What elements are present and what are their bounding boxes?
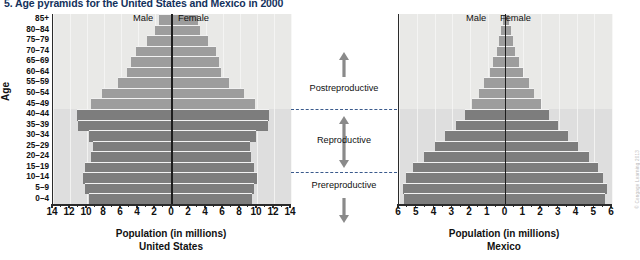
x-axis-minor-tick — [128, 204, 129, 207]
y-axis-tick-label: 55–59 — [26, 78, 49, 86]
y-axis-tick-label: 30–34 — [26, 131, 49, 139]
x-axis-tick-label: 8 — [100, 206, 106, 217]
x-axis-tick-label: 3 — [448, 206, 454, 217]
x-axis-tick-label: 2 — [151, 206, 157, 217]
x-axis-tick-label: 3 — [555, 206, 561, 217]
x-axis-tick-label: 6 — [117, 206, 123, 217]
center-axis-line — [505, 14, 507, 204]
y-axis-tick-label: 10–14 — [26, 173, 49, 181]
center-axis-line — [171, 14, 173, 204]
reproductive-label: Reproductive — [291, 135, 397, 145]
x-axis-minor-tick — [230, 204, 231, 207]
y-axis-tick-label: 60–64 — [26, 68, 49, 76]
x-axis-minor-tick — [477, 204, 478, 207]
us-male-label: Male — [133, 13, 153, 23]
mexico-caption-line2: Mexico — [449, 241, 560, 254]
us-caption-line1: Population (in millions) — [116, 228, 227, 241]
x-axis-tick-label: 10 — [80, 206, 91, 217]
us-plot-area — [52, 14, 291, 204]
y-axis-tick-label: 80–84 — [26, 26, 49, 34]
mexico-caption-line1: Population (in millions) — [449, 228, 560, 241]
y-axis-tick-label: 50–54 — [26, 89, 49, 97]
x-axis-minor-tick — [281, 204, 282, 207]
prereproductive-label: Prereproductive — [291, 180, 397, 190]
x-axis-tick-label: 4 — [202, 206, 208, 217]
x-axis-minor-tick — [77, 204, 78, 207]
x-axis-minor-tick — [424, 204, 425, 207]
x-axis-tick-label: 2 — [537, 206, 543, 217]
x-axis-minor-tick — [145, 204, 146, 207]
y-axis-tick-label: 65–69 — [26, 57, 49, 65]
x-axis-minor-tick — [602, 204, 603, 207]
y-axis-tick-label: 70–74 — [26, 47, 49, 55]
x-axis-minor-tick — [162, 204, 163, 207]
reproductive-zone-annotations: Postreproductive Reproductive Prereprodu… — [291, 14, 397, 204]
x-axis-tick-label: 6 — [395, 206, 401, 217]
x-axis-minor-tick — [264, 204, 265, 207]
y-axis-tick-label: 40–44 — [26, 110, 49, 118]
y-axis-labels: 85+80–8475–7970–7465–6960–6455–5950–5445… — [0, 14, 49, 204]
x-axis-tick-label: 6 — [219, 206, 225, 217]
prereproductive-arrow-icon — [338, 198, 350, 224]
y-axis-tick-label: 35–39 — [26, 121, 49, 129]
x-axis-minor-tick — [60, 204, 61, 207]
x-axis-tick-label: 1 — [519, 206, 525, 217]
x-axis-tick-label: 5 — [590, 206, 596, 217]
grid-line — [612, 14, 613, 204]
x-axis-minor-tick — [531, 204, 532, 207]
x-axis-tick-label: 2 — [185, 206, 191, 217]
y-axis-tick-label: 25–29 — [26, 142, 49, 150]
x-axis-minor-tick — [94, 204, 95, 207]
figure-title: 5. Age pyramids for the United States an… — [4, 0, 283, 9]
x-axis-tick-label: 0 — [502, 206, 508, 217]
x-axis-minor-tick — [460, 204, 461, 207]
us-caption-line2: United States — [116, 241, 227, 254]
us-female-label: Female — [178, 13, 209, 23]
postreproductive-divider — [291, 109, 397, 110]
y-axis-tick-label: 75–79 — [26, 36, 49, 44]
mexico-caption: Population (in millions) Mexico — [449, 228, 560, 253]
x-axis-minor-tick — [196, 204, 197, 207]
x-axis-tick-label: 4 — [573, 206, 579, 217]
x-axis-minor-tick — [566, 204, 567, 207]
x-axis-tick-label: 1 — [484, 206, 490, 217]
x-axis-tick-label: 0 — [168, 206, 174, 217]
y-axis-tick-label: 20–24 — [26, 152, 49, 160]
y-axis-tick-label: 85+ — [35, 15, 49, 23]
y-axis-tick-label: 15–19 — [26, 163, 49, 171]
y-axis-tick-label: 5–9 — [35, 184, 49, 192]
y-axis-tick-label: 0–4 — [35, 195, 49, 203]
x-axis-minor-tick — [513, 204, 514, 207]
x-axis-tick-label: 5 — [413, 206, 419, 217]
credit-text: © Cengage Learning 2013 — [635, 150, 640, 209]
x-axis-tick-label: 10 — [250, 206, 261, 217]
x-axis-tick-label: 4 — [431, 206, 437, 217]
postreproductive-label: Postreproductive — [291, 83, 397, 93]
mexico-female-label: Female — [500, 13, 531, 23]
x-axis-tick-label: 14 — [46, 206, 57, 217]
x-axis-tick-label: 12 — [267, 206, 278, 217]
x-axis-tick-label: 6 — [608, 206, 614, 217]
x-axis-minor-tick — [495, 204, 496, 207]
x-axis-minor-tick — [442, 204, 443, 207]
x-axis-minor-tick — [179, 204, 180, 207]
x-axis-tick-label: 4 — [134, 206, 140, 217]
x-axis-tick-label: 14 — [284, 206, 295, 217]
x-axis-minor-tick — [406, 204, 407, 207]
us-caption: Population (in millions) United States — [116, 228, 227, 253]
x-axis-tick-label: 2 — [466, 206, 472, 217]
y-axis-tick-label: 45–49 — [26, 100, 49, 108]
x-axis-minor-tick — [213, 204, 214, 207]
prereproductive-divider — [291, 172, 397, 173]
postreproductive-arrow-icon — [338, 51, 350, 77]
x-axis-tick-label: 8 — [236, 206, 242, 217]
x-axis-minor-tick — [247, 204, 248, 207]
x-axis-tick-label: 12 — [63, 206, 74, 217]
mexico-male-label: Male — [466, 13, 486, 23]
x-axis-minor-tick — [548, 204, 549, 207]
x-axis-minor-tick — [584, 204, 585, 207]
x-axis-minor-tick — [111, 204, 112, 207]
mexico-plot-area — [398, 14, 612, 204]
